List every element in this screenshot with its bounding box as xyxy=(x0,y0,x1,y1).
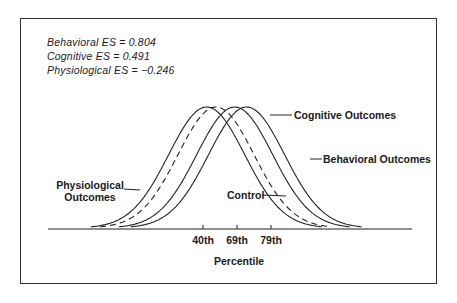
leader-control xyxy=(262,195,286,196)
curve-behavioral-outcomes xyxy=(131,107,362,227)
leader-physiological xyxy=(124,189,140,190)
x-axis-label: Percentile xyxy=(214,255,264,267)
es-cognitive: Cognitive ES = 0.491 xyxy=(47,50,150,62)
label-control: Control xyxy=(227,189,264,201)
tick-label-79th: 79th xyxy=(260,234,282,246)
curve-cognitive-outcomes xyxy=(119,107,350,227)
curve-physiological-outcomes xyxy=(91,107,322,227)
label-physiological-outcomes: Physiological Outcomes xyxy=(56,179,124,203)
label-behavioral-outcomes: Behavioral Outcomes xyxy=(323,153,431,165)
label-physiological-line1: Physiological xyxy=(56,179,124,191)
es-behavioral: Behavioral ES = 0.804 xyxy=(47,36,156,48)
es-physiological: Physiological ES = −0.246 xyxy=(47,64,175,76)
curve-control xyxy=(100,107,331,227)
tick-label-40th: 40th xyxy=(192,234,214,246)
label-cognitive-outcomes: Cognitive Outcomes xyxy=(294,109,396,121)
tick-label-69th: 69th xyxy=(226,234,248,246)
label-physiological-line2: Outcomes xyxy=(56,191,124,203)
